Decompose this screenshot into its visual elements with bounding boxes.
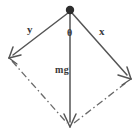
vector-y-shaft bbox=[13, 13, 68, 55]
vector-label-y: y bbox=[27, 24, 33, 35]
angle-label-theta: θ bbox=[67, 28, 72, 38]
vector-label-mg: mg bbox=[55, 65, 69, 75]
vector-label-x: x bbox=[99, 26, 105, 37]
vector-x-arrowhead bbox=[118, 67, 131, 85]
force-diagram-figure: y x θ mg bbox=[0, 0, 137, 135]
pivot-point-dot bbox=[66, 6, 74, 14]
construction-line-parallel-to-y bbox=[74, 82, 127, 123]
vector-x-shaft bbox=[72, 13, 127, 75]
